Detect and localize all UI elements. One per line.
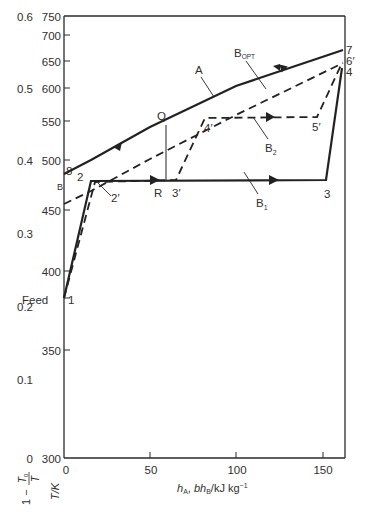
xtick-150: 150: [313, 464, 332, 476]
carnot-0: 0: [27, 453, 33, 465]
xtick-50: 50: [145, 464, 158, 476]
label-B: B: [57, 182, 63, 192]
carnot-0.6: 0.6: [17, 11, 33, 23]
carnot-0.5: 0.5: [17, 83, 33, 95]
label-1: 1: [68, 294, 74, 306]
curve-A: [64, 50, 343, 174]
tick-750: 750: [42, 11, 61, 23]
leader-lines: [98, 61, 268, 196]
tick-700: 700: [42, 30, 61, 42]
label-7: 7: [346, 44, 352, 56]
label-A: A: [195, 64, 203, 76]
y-left-tick-labels: 0.6 0.5 0.4 0.3 0.2 0.1 0: [17, 11, 34, 465]
svg-text:T/K: T/K: [49, 482, 61, 500]
x-ticks: [150, 452, 323, 458]
x-axis-label: hA, bhB/kJ kg−1: [177, 482, 248, 495]
label-B1: B1: [256, 197, 268, 211]
label-5prime: 5′: [312, 121, 321, 133]
arrow-B1-2: [269, 175, 279, 185]
svg-text:0: 0: [23, 473, 29, 477]
label-B-opt: BOPT: [234, 47, 255, 60]
carnot-0.4: 0.4: [17, 155, 34, 167]
y-right-tick-labels: 750 700 650 600 550 500 450 400 350 300: [42, 11, 61, 465]
tick-450: 450: [42, 205, 61, 217]
label-6prime: 6′: [346, 55, 355, 67]
carnot-0.3: 0.3: [17, 228, 33, 240]
label-4prime: 4′: [204, 122, 213, 134]
y-axis-label-carnot: 1 − T0 T: [17, 472, 41, 505]
tick-650: 650: [42, 56, 61, 68]
arrow-A-3: [273, 64, 280, 71]
svg-text:hA, bhB/kJ kg−1: hA, bhB/kJ kg−1: [177, 482, 248, 495]
tick-600: 600: [42, 83, 61, 95]
tick-550: 550: [42, 116, 61, 128]
label-3: 3: [324, 188, 330, 200]
x-tick-labels: 0 50 100 150: [63, 464, 333, 476]
exergy-temperature-enthalpy-diagram: 750 700 650 600 550 500 450 400 350 300 …: [0, 0, 367, 514]
svg-text:T: T: [30, 475, 41, 482]
arrow-B2: [266, 112, 275, 122]
carnot-0.1: 0.1: [17, 374, 33, 386]
label-2: 2: [77, 171, 83, 183]
label-B2: B2: [265, 142, 277, 156]
xtick-0: 0: [63, 464, 69, 476]
tick-350: 350: [42, 345, 61, 357]
arrow-A-2: [113, 142, 122, 151]
xtick-100: 100: [227, 464, 246, 476]
label-3prime: 3′: [172, 187, 181, 199]
tick-500: 500: [42, 155, 61, 167]
svg-text:1 −: 1 −: [20, 489, 32, 505]
y-axis-label-temperature: T/K: [49, 482, 61, 500]
tick-300: 300: [42, 453, 61, 465]
tick-400: 400: [42, 266, 61, 278]
label-8: 8: [66, 165, 72, 177]
label-R: R: [154, 187, 162, 199]
label-2prime: 2′: [111, 192, 120, 204]
label-feed: Feed: [22, 294, 48, 306]
label-Q: Q: [157, 110, 166, 122]
label-4: 4: [346, 66, 353, 78]
